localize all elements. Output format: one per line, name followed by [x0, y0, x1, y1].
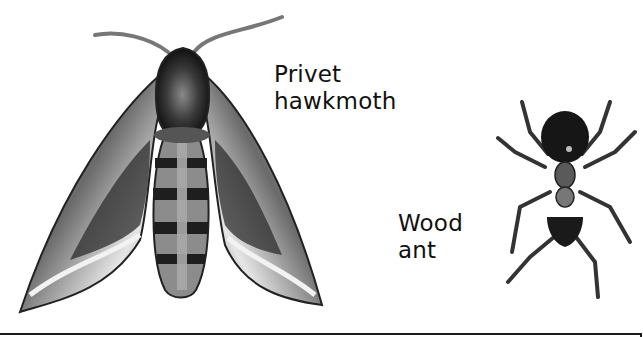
ant-label: Wood ant [398, 210, 463, 264]
moth-label-line-1: Privet [274, 61, 396, 88]
moth-label-line-2: hawkmoth [274, 88, 396, 115]
ant-label-line-1: Wood [398, 210, 463, 237]
bottom-divider [0, 333, 642, 335]
ant-label-line-2: ant [398, 237, 463, 264]
wood-ant-illustration [490, 92, 640, 312]
privet-hawkmoth-illustration [0, 0, 330, 320]
bottom-divider-corner [640, 333, 642, 337]
moth-label: Privet hawkmoth [274, 61, 396, 115]
